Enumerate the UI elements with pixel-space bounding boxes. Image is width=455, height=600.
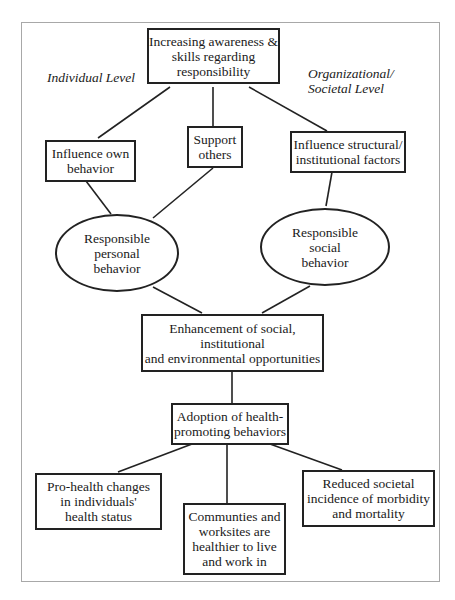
node-influence-structural: Influence structural/ institutional fact… [290,131,406,173]
node-support-others: Support others [187,126,243,168]
node-adoption: Adoption of health- promoting behaviors [171,403,289,445]
organizational-level-label: Organizational/ Societal Level [308,66,394,96]
node-reduced-incidence: Reduced societal incidence of morbidity … [302,470,435,527]
node-awareness: Increasing awareness & skills regarding … [147,28,280,84]
node-responsible-personal-behavior: Responsible personal behavior [55,214,179,292]
node-enhancement: Enhancement of social, institutional and… [141,314,324,372]
node-influence-own-behavior: Influence own behavior [45,140,136,182]
node-communities: Communties and worksites are healthier t… [183,503,286,575]
node-responsible-social-behavior: Responsible social behavior [260,208,390,286]
individual-level-label: Individual Level [47,70,135,85]
node-pro-health-changes: Pro-health changes in individuals' healt… [35,473,162,530]
